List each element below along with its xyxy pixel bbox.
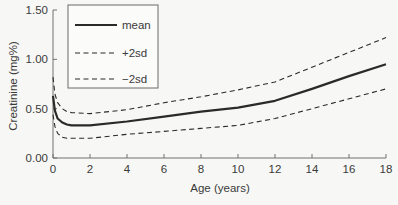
y-tick-label: 1.50 — [26, 4, 48, 16]
x-tick-label: 14 — [306, 163, 319, 175]
legend-label: mean — [122, 19, 151, 31]
y-axis-label: Creatinine (mg%) — [7, 41, 19, 131]
x-tick-label: 8 — [198, 163, 204, 175]
svg-text:Creatinine (mg%): Creatinine (mg%) — [7, 41, 19, 131]
x-tick-label: 2 — [87, 163, 93, 175]
x-tick-label: 4 — [124, 163, 131, 175]
x-tick-label: 16 — [343, 163, 356, 175]
y-tick-label: 0.00 — [26, 152, 48, 164]
creatinine-by-age-chart: Creatinine (mg%) 0.000.501.001.500246810… — [0, 0, 398, 205]
legend: mean+2sd−2sd — [68, 5, 158, 88]
series-2sd-line — [53, 89, 386, 138]
x-tick-label: 0 — [50, 163, 56, 175]
legend-label: +2sd — [122, 47, 147, 59]
x-axis-label: Age (years) — [190, 182, 250, 194]
x-tick-label: 10 — [232, 163, 245, 175]
y-tick-label: 1.00 — [26, 53, 48, 65]
x-tick-label: 18 — [380, 163, 393, 175]
y-tick-label: 0.50 — [26, 103, 48, 115]
legend-label: −2sd — [122, 73, 147, 85]
x-tick-label: 12 — [269, 163, 282, 175]
x-tick-label: 6 — [161, 163, 167, 175]
